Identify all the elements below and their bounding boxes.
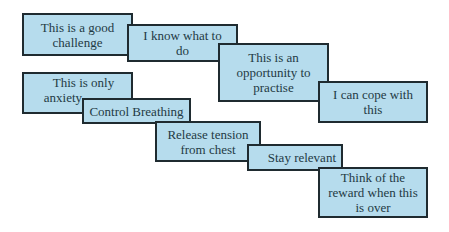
card-can-cope: I can cope with this bbox=[318, 81, 428, 123]
card-think-of-reward: Think of the reward when this is over bbox=[318, 167, 428, 218]
card-line: Release tension bbox=[167, 127, 248, 142]
card-line: This is only bbox=[41, 75, 114, 90]
card-line: from chest bbox=[167, 142, 248, 157]
card-line: opportunity to bbox=[236, 65, 310, 80]
card-good-challenge: This is a good challenge bbox=[22, 13, 133, 56]
card-line: Stay relevant bbox=[268, 150, 336, 165]
card-release-tension: Release tension from chest bbox=[155, 121, 261, 162]
card-line: Think of the bbox=[328, 170, 418, 185]
card-line: do bbox=[143, 43, 221, 58]
card-line: Control Breathing bbox=[89, 104, 183, 119]
card-opportunity-to-practise: This is an opportunity to practise bbox=[218, 43, 329, 102]
card-line: is over bbox=[328, 200, 418, 215]
card-line: challenge bbox=[41, 35, 114, 50]
card-line: I can cope with bbox=[333, 87, 413, 102]
card-line: practise bbox=[236, 80, 310, 95]
card-line: This is an bbox=[236, 50, 310, 65]
card-line: reward when this bbox=[328, 185, 418, 200]
card-line: This is a good bbox=[41, 20, 114, 35]
card-line: this bbox=[333, 102, 413, 117]
card-line: I know what to bbox=[143, 28, 221, 43]
